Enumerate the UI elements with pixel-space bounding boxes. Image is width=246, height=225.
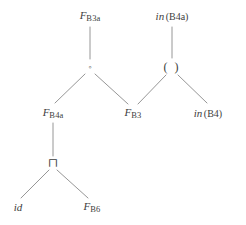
node-in-b4-argument: (B4) bbox=[204, 108, 222, 119]
node-f-b3-symbol: F bbox=[125, 106, 132, 118]
node-f-b3a-symbol: F bbox=[80, 9, 87, 21]
node-f-b4a: FB4a bbox=[43, 107, 64, 120]
node-f-b3a-subscript: B3a bbox=[86, 13, 100, 23]
node-f-b6-symbol: F bbox=[84, 200, 91, 212]
node-in-b4a-operator: in bbox=[156, 10, 165, 22]
node-f-b3: FB3 bbox=[125, 107, 142, 120]
node-in-b4: in(B4) bbox=[194, 108, 222, 119]
node-f-b6-subscript: B6 bbox=[90, 204, 100, 214]
edge-compose-to-f-b3 bbox=[95, 74, 128, 104]
node-in-b4a-argument: (B4a) bbox=[166, 11, 189, 22]
edge-meet-to-f-b6 bbox=[57, 170, 88, 198]
node-in-b4a: in(B4a) bbox=[156, 11, 189, 22]
term-graph-diagram: FB3a in(B4a) ◦ ( ) FB4a FB3 in(B4) ⊓ id … bbox=[0, 0, 246, 225]
node-apply-operator: ( ) bbox=[164, 61, 181, 73]
node-identity: id bbox=[14, 202, 23, 213]
node-f-b3a: FB3a bbox=[80, 10, 101, 23]
edge-apply-to-in-b4 bbox=[178, 75, 207, 103]
node-compose-operator: ◦ bbox=[88, 63, 91, 72]
node-in-b4-operator: in bbox=[194, 107, 203, 119]
node-f-b4a-symbol: F bbox=[43, 106, 50, 118]
edge-compose-to-f-b4a bbox=[55, 74, 85, 103]
edge-meet-to-id bbox=[21, 170, 49, 198]
node-f-b3-subscript: B3 bbox=[131, 110, 141, 120]
node-f-b6: FB6 bbox=[84, 201, 101, 214]
node-meet-operator: ⊓ bbox=[48, 157, 58, 169]
edge-apply-to-f-b3 bbox=[138, 75, 166, 104]
node-f-b4a-subscript: B4a bbox=[49, 110, 63, 120]
